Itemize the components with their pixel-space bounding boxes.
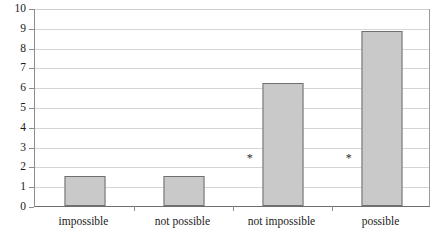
- y-tick-label: 5: [20, 102, 26, 114]
- y-tick-mark: [29, 88, 34, 89]
- x-tick-label: not impossible: [248, 216, 315, 228]
- x-tick-mark: [332, 206, 333, 211]
- x-axis: impossiblenot possiblenot impossibleposs…: [34, 216, 430, 238]
- y-axis: 012345678910: [0, 9, 26, 207]
- y-tick-label: 6: [20, 82, 26, 94]
- bar-band: [233, 9, 332, 206]
- y-tick-label: 10: [15, 3, 27, 15]
- y-tick-mark: [29, 9, 34, 10]
- y-tick-mark: [29, 207, 34, 208]
- bar-band: [134, 9, 233, 206]
- x-tick-label: possible: [362, 216, 400, 228]
- y-tick-mark: [29, 128, 34, 129]
- bar-series: [35, 9, 429, 206]
- bar-chart: 012345678910 ** impossiblenot possibleno…: [0, 0, 438, 247]
- bar: [361, 31, 402, 206]
- y-tick-mark: [29, 29, 34, 30]
- y-tick-label: 3: [20, 142, 26, 154]
- bar-band: [332, 9, 431, 206]
- x-tick-mark: [233, 206, 234, 211]
- y-tick-label: 8: [20, 43, 26, 55]
- bar: [64, 176, 105, 206]
- y-tick-mark: [29, 68, 34, 69]
- y-tick-mark: [29, 49, 34, 50]
- bar-band: [35, 9, 134, 206]
- x-tick-mark: [134, 206, 135, 211]
- bar: [262, 83, 303, 206]
- x-tick-label: not possible: [155, 216, 210, 228]
- bar: [163, 176, 204, 206]
- asterisk-annotation: *: [346, 152, 352, 164]
- y-tick-label: 2: [20, 162, 26, 174]
- x-tick-label: impossible: [59, 216, 109, 228]
- y-tick-mark: [29, 148, 34, 149]
- y-tick-label: 9: [20, 23, 26, 35]
- asterisk-annotation: *: [247, 152, 253, 164]
- y-tick-label: 7: [20, 63, 26, 75]
- y-tick-mark: [29, 167, 34, 168]
- y-tick-label: 0: [20, 201, 26, 213]
- y-tick-label: 1: [20, 181, 26, 193]
- y-tick-label: 4: [20, 122, 26, 134]
- y-tick-mark: [29, 187, 34, 188]
- y-tick-mark: [29, 108, 34, 109]
- plot-area: **: [34, 9, 430, 207]
